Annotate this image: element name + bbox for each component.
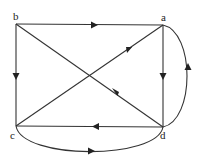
node-label-d: d xyxy=(160,129,166,141)
arrow-c-d-icon xyxy=(88,148,95,155)
graph-diagram: b a c d xyxy=(0,0,201,158)
node-label-c: c xyxy=(10,129,15,141)
node-label-a: a xyxy=(161,11,166,23)
node-label-b: b xyxy=(13,10,19,22)
arrow-b-a-icon xyxy=(91,22,98,29)
edge-b-a xyxy=(16,24,163,25)
edge-c-a xyxy=(16,25,163,126)
arrow-c-a-icon xyxy=(126,46,133,53)
arrow-b-c-icon xyxy=(13,73,20,80)
arrow-d-c-icon xyxy=(92,123,99,130)
arrow-d-a-icon xyxy=(185,63,192,70)
edge-d-c xyxy=(16,126,163,127)
edge-d-a-curved xyxy=(163,25,187,127)
arrow-a-d-icon xyxy=(160,73,167,80)
edge-c-d-curved xyxy=(16,126,163,152)
